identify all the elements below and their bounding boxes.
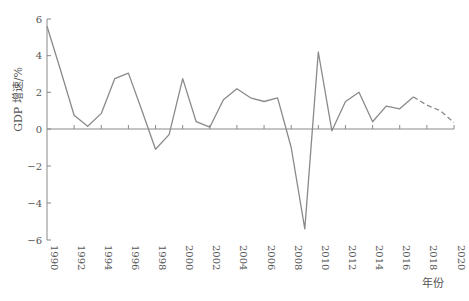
x-tick-label: 2002	[211, 245, 222, 270]
series-line-actual	[47, 26, 413, 229]
y-axis-title: GDP 增速/%	[11, 67, 25, 132]
y-tick-label: −2	[27, 161, 42, 172]
x-tick-label: 1994	[103, 245, 114, 270]
series-line-forecast	[413, 97, 454, 123]
x-tick-label: 2008	[293, 245, 304, 270]
y-tick-label: 4	[36, 50, 42, 61]
x-tick-label: 1996	[130, 245, 141, 270]
x-axis-title: 年份	[422, 276, 444, 290]
x-tick-label: 2000	[184, 245, 195, 270]
x-tick-label: 2018	[428, 245, 439, 270]
x-tick-label: 2020	[456, 245, 467, 270]
y-tick-label: −4	[27, 198, 42, 209]
y-tick-label: 6	[36, 14, 42, 25]
x-tick-label: 2014	[374, 245, 385, 270]
x-tick-label: 1990	[49, 245, 60, 270]
y-tick-label: 2	[36, 87, 42, 98]
x-tick-label: 2004	[238, 245, 249, 270]
y-tick-label: −6	[27, 235, 42, 246]
x-tick-label: 1998	[157, 245, 168, 270]
x-tick-label: 1992	[76, 245, 87, 270]
x-tick-label: 2006	[266, 245, 277, 270]
x-tick-label: 2012	[347, 245, 358, 270]
y-tick-label: 0	[36, 124, 42, 135]
x-tick-label: 2016	[401, 245, 412, 270]
x-tick-label: 2010	[320, 245, 331, 270]
gdp-growth-line-chart: 6420−2−4−6199019921994199619982000200220…	[0, 0, 469, 301]
